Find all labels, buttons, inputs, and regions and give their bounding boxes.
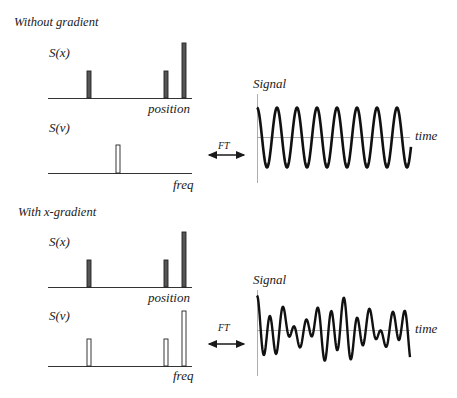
diagram-canvas (0, 0, 457, 398)
position-spectrum-bars (87, 232, 186, 287)
spectrum-bar (87, 260, 91, 287)
signal-waveform (257, 296, 410, 361)
spectrum-bar (164, 339, 168, 366)
spectrum-bar (164, 71, 168, 98)
spectrum-bar (182, 43, 186, 98)
spectrum-bar (87, 71, 91, 98)
frequency-spectrum-bars (87, 311, 186, 366)
spectrum-bar (116, 145, 120, 173)
spectrum-bar (164, 260, 168, 287)
position-spectrum-bars (87, 43, 186, 98)
spectrum-bar (87, 339, 91, 366)
spectrum-bar (182, 232, 186, 287)
spectrum-bar (182, 311, 186, 366)
frequency-spectrum-bars (116, 145, 120, 173)
